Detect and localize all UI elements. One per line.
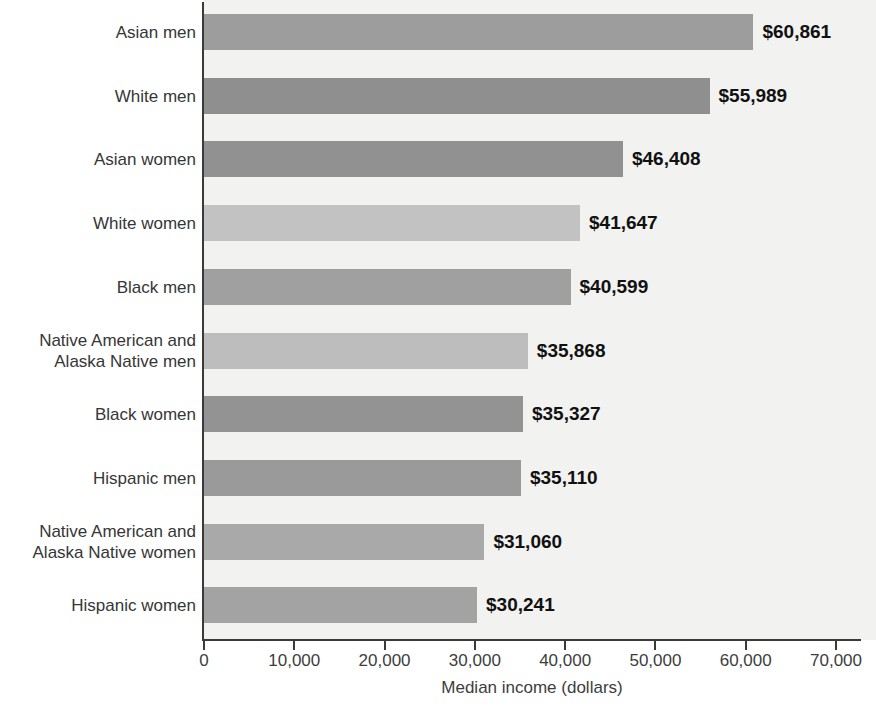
x-tick-mark — [474, 641, 476, 650]
bar[interactable] — [204, 78, 710, 114]
x-tick-mark — [835, 641, 837, 650]
bar[interactable] — [204, 396, 523, 432]
category-label: Hispanic men — [0, 467, 196, 488]
bar-value-label: $35,110 — [530, 467, 598, 489]
bar[interactable] — [204, 14, 753, 50]
category-label: Hispanic women — [0, 595, 196, 616]
x-tick-label: 70,000 — [810, 651, 862, 671]
x-tick-mark — [203, 641, 205, 650]
category-label: Black men — [0, 276, 196, 297]
x-tick-label: 40,000 — [539, 651, 591, 671]
x-tick-mark — [654, 641, 656, 650]
bar[interactable] — [204, 205, 580, 241]
bar-row: White men$55,989 — [0, 78, 876, 114]
bar-row: Asian women$46,408 — [0, 141, 876, 177]
bar-value-label: $35,327 — [532, 403, 601, 425]
x-tick-mark — [293, 641, 295, 650]
bar-row: Native American and Alaska Native men$35… — [0, 333, 876, 369]
x-tick-label: 60,000 — [720, 651, 772, 671]
bar-row: Hispanic women$30,241 — [0, 587, 876, 623]
bar[interactable] — [204, 333, 528, 369]
category-label: White women — [0, 213, 196, 234]
x-tick-label: 20,000 — [359, 651, 411, 671]
bar-row: Black men$40,599 — [0, 269, 876, 305]
x-axis-title: Median income (dollars) — [203, 678, 861, 698]
x-tick-label: 10,000 — [268, 651, 320, 671]
bar-row: Black women$35,327 — [0, 396, 876, 432]
bar-row: White women$41,647 — [0, 205, 876, 241]
x-tick-mark — [745, 641, 747, 650]
x-tick-mark — [564, 641, 566, 650]
bar-value-label: $35,868 — [537, 340, 606, 362]
bar[interactable] — [204, 587, 477, 623]
x-tick-label: 50,000 — [629, 651, 681, 671]
category-label: Asian women — [0, 149, 196, 170]
bar-row: Native American and Alaska Native women$… — [0, 524, 876, 560]
bar-chart: Asian men$60,861White men$55,989Asian wo… — [0, 0, 876, 716]
bar-row: Asian men$60,861 — [0, 14, 876, 50]
bar[interactable] — [204, 269, 571, 305]
x-tick-mark — [384, 641, 386, 650]
category-label: Asian men — [0, 22, 196, 43]
bar-value-label: $46,408 — [632, 148, 701, 170]
x-tick-label: 30,000 — [449, 651, 501, 671]
category-label: White men — [0, 85, 196, 106]
bar[interactable] — [204, 460, 521, 496]
category-label: Native American and Alaska Native men — [0, 330, 196, 372]
bar-value-label: $55,989 — [719, 85, 788, 107]
bar-row: Hispanic men$35,110 — [0, 460, 876, 496]
category-label: Native American and Alaska Native women — [0, 521, 196, 563]
bar-value-label: $30,241 — [486, 594, 555, 616]
bar-value-label: $40,599 — [580, 276, 649, 298]
bar-value-label: $31,060 — [493, 531, 562, 553]
x-tick-label: 0 — [199, 651, 208, 671]
x-axis-line — [203, 639, 861, 641]
bar-value-label: $41,647 — [589, 212, 658, 234]
bar[interactable] — [204, 524, 484, 560]
category-label: Black women — [0, 404, 196, 425]
bar[interactable] — [204, 141, 623, 177]
bar-value-label: $60,861 — [762, 21, 831, 43]
